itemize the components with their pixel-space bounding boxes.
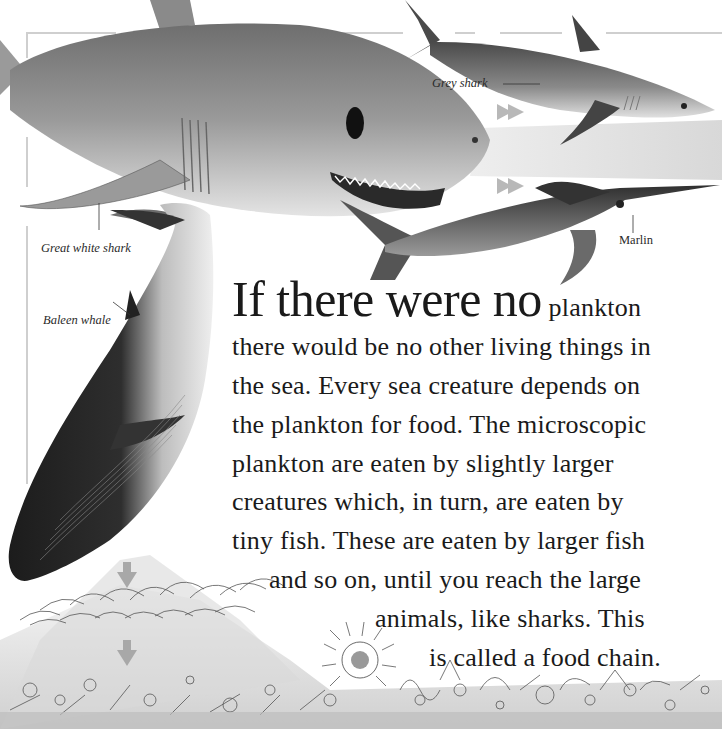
body-line-2: there would be no other living things in xyxy=(232,334,651,360)
body-line-10: is called a food chain. xyxy=(429,645,661,671)
body-line-1-rest: plankton xyxy=(549,293,642,322)
label-marlin: Marlin xyxy=(619,233,653,248)
arrow-right-2 xyxy=(497,178,524,194)
body-line-3: the sea. Every sea creature depends on xyxy=(232,373,640,399)
light-band xyxy=(470,120,722,180)
body-line-9: animals, like sharks. This xyxy=(375,606,645,632)
book-page: Great white shark Grey shark Marlin Bale… xyxy=(0,0,722,729)
body-line-8: and so on, until you reach the large xyxy=(269,567,641,593)
body-line-5: plankton are eaten by slightly larger xyxy=(232,451,614,477)
body-line-4: the plankton for food. The microscopic xyxy=(232,412,646,438)
great-white-shark xyxy=(0,0,490,225)
body-line-1: If there were no plankton xyxy=(232,274,641,324)
headline: If there were no xyxy=(232,271,542,327)
label-grey-shark: Grey shark xyxy=(432,76,487,91)
body-line-7: tiny fish. These are eaten by larger fis… xyxy=(232,528,645,554)
label-baleen-whale: Baleen whale xyxy=(43,313,111,328)
body-line-6: creatures which, in turn, are eaten by xyxy=(232,489,624,515)
label-great-white-shark: Great white shark xyxy=(41,241,131,256)
baleen-whale xyxy=(9,203,214,581)
arrow-right-1 xyxy=(497,104,524,120)
